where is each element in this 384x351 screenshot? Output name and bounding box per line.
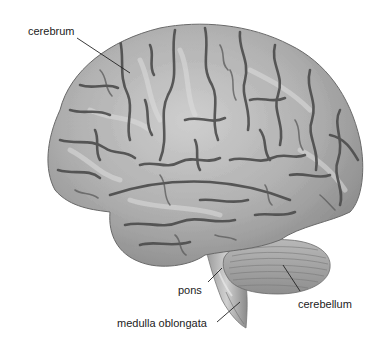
pons-label: pons: [178, 284, 202, 296]
brain-diagram: cerebrum pons cerebellum medulla oblonga…: [0, 0, 384, 351]
cerebrum-label: cerebrum: [28, 25, 74, 37]
medulla-oblongata-label: medulla oblongata: [117, 317, 207, 329]
cerebrum: [48, 24, 363, 266]
cerebellum-label: cerebellum: [298, 298, 352, 310]
